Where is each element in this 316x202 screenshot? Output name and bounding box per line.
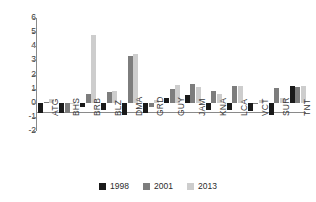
legend-label: 1998	[110, 182, 129, 191]
x-axis-label-lca: LCA	[239, 76, 249, 116]
chart-legend: 199820012013	[0, 182, 316, 191]
x-axis-label-vct: VCT	[260, 76, 270, 116]
bar-jam-2001	[190, 84, 195, 103]
bar-tnt-2001	[295, 87, 300, 103]
y-axis-tick-label: 6	[0, 12, 36, 23]
x-axis-label-guy: GUY	[176, 76, 186, 116]
x-axis-label-sur: SUR	[281, 76, 291, 116]
bar-blz-2001	[107, 92, 112, 103]
legend-item-1998[interactable]: 1998	[99, 182, 129, 191]
x-axis-label-kna: KNA	[218, 76, 228, 116]
legend-label: 2013	[198, 182, 217, 191]
x-axis-label-dma: DMA	[134, 76, 144, 116]
legend-label: 2001	[154, 182, 173, 191]
bar-bhs-2001	[65, 103, 70, 113]
y-axis-tick-label: -2	[0, 125, 36, 136]
legend-swatch-icon	[99, 183, 106, 190]
legend-item-2001[interactable]: 2001	[143, 182, 173, 191]
x-axis-label-blz: BLZ	[113, 76, 123, 116]
y-axis-tick-mark	[32, 131, 36, 132]
x-axis-label-grd: GRD	[155, 76, 165, 116]
bar-sur-2001	[274, 88, 279, 103]
x-axis-label-tnt: TNT	[302, 76, 312, 116]
y-axis-tick-label: 0	[0, 97, 36, 108]
legend-item-2013[interactable]: 2013	[187, 182, 217, 191]
bar-kna-2001	[211, 91, 216, 102]
bar-grd-2001	[149, 103, 154, 107]
bar-chart: 6543210-1-2 ATGBHSBRBBLZDMAGRDGUYJAMKNAL…	[0, 0, 316, 202]
bar-vct-2001	[253, 103, 258, 104]
y-axis-tick-label: 1	[0, 83, 36, 94]
legend-swatch-icon	[143, 183, 150, 190]
bar-atg-2001	[44, 102, 49, 103]
bar-brb-2001	[86, 94, 91, 103]
y-axis-tick-label: 5	[0, 26, 36, 37]
x-axis-label-atg: ATG	[50, 76, 60, 116]
x-axis-label-bhs: BHS	[71, 76, 81, 116]
bar-lca-2001	[232, 86, 237, 103]
y-axis-tick-label: -1	[0, 111, 36, 122]
bar-guy-2001	[170, 89, 175, 103]
bar-brb-1998	[80, 103, 85, 107]
x-axis-label-jam: JAM	[197, 76, 207, 116]
y-axis-tick-label: 3	[0, 54, 36, 65]
y-axis-tick-label: 2	[0, 69, 36, 80]
y-axis-tick-label: 4	[0, 40, 36, 51]
bar-atg-1998	[38, 103, 43, 113]
x-axis-label-brb: BRB	[92, 76, 102, 116]
legend-swatch-icon	[187, 183, 194, 190]
bar-dma-2001	[128, 56, 133, 103]
bar-bhs-1998	[59, 103, 64, 114]
